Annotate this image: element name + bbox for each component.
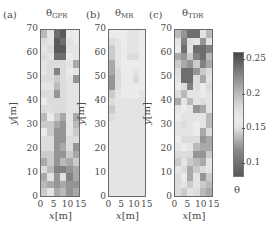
- colorbar-tick-label: 0.25: [246, 53, 266, 63]
- heatmap-cell: [73, 128, 79, 136]
- colorbar-tick-label: 0.1: [246, 157, 260, 167]
- heatmap-cell: [73, 143, 79, 151]
- heatmap-cell: [206, 158, 212, 166]
- heatmap-cell: [206, 136, 212, 144]
- heatmap-cell: [139, 53, 145, 61]
- heatmap-cell: [139, 38, 145, 46]
- heatmap-cell: [206, 68, 212, 76]
- heatmap-cell: [73, 75, 79, 83]
- colorbar-tick-mark: [242, 59, 245, 60]
- heatmap-cell: [206, 45, 212, 53]
- heatmap-cell: [206, 128, 212, 136]
- heatmap-cell: [206, 181, 212, 189]
- colorbar-tick-label: 0.2: [246, 88, 260, 98]
- y-tick-label: 30: [24, 119, 38, 129]
- heatmap-cell: [206, 75, 212, 83]
- heatmap-cell: [206, 188, 212, 196]
- y-tick-label: 0: [158, 191, 172, 201]
- heatmap-cell: [206, 173, 212, 181]
- y-tick-label: 50: [158, 71, 172, 81]
- y-tick-label: 40: [158, 95, 172, 105]
- heatmap-cell: [206, 53, 212, 61]
- heatmap-cell: [139, 30, 145, 38]
- panel-b-title: θMR: [115, 7, 133, 20]
- colorbar: [233, 52, 244, 177]
- x-tick-label: 0: [106, 199, 112, 209]
- heatmap-cell: [73, 181, 79, 189]
- y-tick-label: 20: [92, 143, 106, 153]
- y-tick-label: 60: [158, 47, 172, 57]
- heatmap-cell: [73, 90, 79, 98]
- heatmap-cell: [73, 188, 79, 196]
- heatmap-tdr: [174, 29, 213, 197]
- heatmap-cell: [139, 60, 145, 68]
- y-tick-label: 30: [92, 119, 106, 129]
- heatmap-cell: [139, 181, 145, 189]
- heatmap-cell: [139, 188, 145, 196]
- heatmap-cell: [206, 60, 212, 68]
- heatmap-cell: [139, 128, 145, 136]
- y-axis-label: y[m]: [75, 102, 86, 125]
- colorbar-tick-mark: [242, 163, 245, 164]
- x-tick-label: 10: [128, 199, 139, 209]
- heatmap-cell: [73, 38, 79, 46]
- x-tick-label: 0: [38, 199, 44, 209]
- y-tick-label: 10: [92, 167, 106, 177]
- heatmap-cell: [206, 83, 212, 91]
- y-tick-label: 0: [92, 191, 106, 201]
- panel-c-title: θTDR: [182, 7, 204, 20]
- x-tick-label: 15: [208, 199, 219, 209]
- x-tick-label: 5: [185, 199, 191, 209]
- heatmap-cell: [139, 166, 145, 174]
- heatmap-cell: [206, 121, 212, 129]
- y-axis-label: y[m]: [7, 102, 18, 125]
- heatmap-cell: [139, 151, 145, 159]
- x-tick-label: 5: [51, 199, 57, 209]
- heatmap-cell: [206, 90, 212, 98]
- heatmap-cell: [139, 68, 145, 76]
- x-tick-label: 5: [118, 199, 124, 209]
- heatmap-cell: [206, 143, 212, 151]
- x-tick-label: 10: [195, 199, 206, 209]
- heatmap-cell: [139, 136, 145, 144]
- heatmap-cell: [73, 173, 79, 181]
- heatmap-cell: [73, 151, 79, 159]
- heatmap-cell: [139, 143, 145, 151]
- x-tick-label: 10: [62, 199, 73, 209]
- y-tick-label: 0: [24, 191, 38, 201]
- panel-c-label: (c): [149, 9, 162, 20]
- x-tick-label: 15: [141, 199, 152, 209]
- x-tick-label: 0: [172, 199, 178, 209]
- heatmap-cell: [206, 98, 212, 106]
- heatmap-cell: [206, 105, 212, 113]
- heatmap-cell: [206, 166, 212, 174]
- x-axis-label: x[m]: [183, 210, 206, 221]
- heatmap-gpr: [40, 29, 80, 197]
- colorbar-label: θ: [234, 184, 240, 195]
- heatmap-cell: [73, 83, 79, 91]
- panel-b-label: (b): [86, 9, 100, 20]
- y-tick-label: 60: [92, 47, 106, 57]
- heatmap-cell: [139, 45, 145, 53]
- x-tick-label: 15: [75, 199, 86, 209]
- heatmap-cell: [73, 30, 79, 38]
- heatmap-cell: [206, 38, 212, 46]
- panel-a-label: (a): [3, 9, 17, 20]
- y-tick-label: 50: [92, 71, 106, 81]
- heatmap-cell: [206, 30, 212, 38]
- heatmap-cell: [73, 158, 79, 166]
- y-tick-label: 50: [24, 71, 38, 81]
- y-tick-label: 20: [24, 143, 38, 153]
- heatmap-cell: [73, 60, 79, 68]
- x-axis-label: x[m]: [116, 210, 139, 221]
- y-tick-label: 10: [158, 167, 172, 177]
- heatmap-cell: [206, 151, 212, 159]
- heatmap-cell: [139, 158, 145, 166]
- y-tick-label: 40: [92, 95, 106, 105]
- y-tick-label: 70: [92, 23, 106, 33]
- colorbar-tick-mark: [242, 94, 245, 95]
- heatmap-cell: [139, 75, 145, 83]
- heatmap-cell: [73, 53, 79, 61]
- heatmap-cell: [73, 68, 79, 76]
- y-tick-label: 30: [158, 119, 172, 129]
